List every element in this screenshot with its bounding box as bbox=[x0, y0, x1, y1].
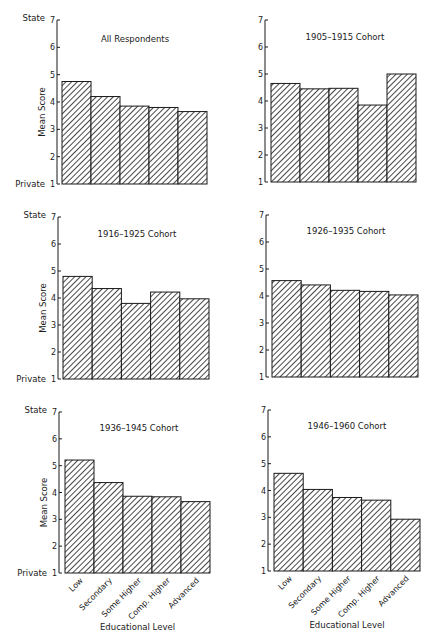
private-label: Private bbox=[15, 179, 45, 189]
category-label: Low bbox=[277, 574, 295, 592]
y-tick-label: 5 bbox=[51, 267, 56, 276]
y-tick-label: 6 bbox=[50, 43, 55, 52]
y-tick-label: 6 bbox=[259, 238, 264, 247]
y-tick-label: 5 bbox=[259, 265, 264, 274]
y-tick-label: 2 bbox=[259, 346, 264, 355]
bar-low bbox=[63, 276, 92, 379]
y-tick-label: 5 bbox=[50, 71, 55, 80]
bar-advanced bbox=[178, 112, 207, 184]
bar-advanced bbox=[180, 299, 209, 379]
panel-title: 1946–1960 Cohort bbox=[308, 421, 387, 431]
y-tick-label: 4 bbox=[261, 487, 266, 496]
x-axis-label: Educational Level bbox=[309, 620, 384, 630]
bar-some-higher bbox=[123, 496, 152, 573]
bar-secondary bbox=[92, 289, 121, 379]
y-tick-label: 2 bbox=[261, 540, 266, 549]
bar-advanced bbox=[389, 295, 418, 377]
state-label: State bbox=[25, 405, 48, 415]
y-tick-label: 4 bbox=[51, 294, 56, 303]
y-tick-label: 3 bbox=[51, 321, 56, 330]
chart-panel-1: 1234567All RespondentsMean ScoreStatePri… bbox=[15, 13, 207, 189]
y-tick-label: 4 bbox=[50, 98, 55, 107]
x-axis-label: Educational Level bbox=[100, 622, 175, 632]
y-tick-label: 4 bbox=[258, 97, 263, 106]
panel-title: 1926–1935 Cohort bbox=[307, 226, 386, 236]
y-tick-label: 1 bbox=[258, 178, 263, 187]
category-label: Advanced bbox=[167, 576, 201, 610]
bar-some-higher bbox=[329, 88, 358, 182]
y-tick-label: 7 bbox=[258, 16, 263, 25]
y-tick-label: 7 bbox=[261, 406, 266, 415]
y-tick-label: 3 bbox=[50, 125, 55, 134]
y-tick-label: 3 bbox=[259, 319, 264, 328]
bar-secondary bbox=[301, 285, 330, 377]
bar-secondary bbox=[303, 489, 332, 571]
y-tick-label: 4 bbox=[259, 292, 264, 301]
bar-some-higher bbox=[120, 106, 149, 184]
chart-panel-2: 12345671905–1915 Cohort bbox=[258, 16, 416, 187]
bar-secondary bbox=[300, 89, 329, 182]
y-tick-label: 1 bbox=[50, 180, 55, 189]
y-tick-label: 7 bbox=[259, 211, 264, 220]
figure: 1234567All RespondentsMean ScoreStatePri… bbox=[0, 0, 436, 643]
bar-comp-higher bbox=[358, 105, 387, 182]
chart-panel-4: 12345671926–1935 Cohort bbox=[259, 211, 418, 382]
y-tick-label: 5 bbox=[258, 70, 263, 79]
y-tick-label: 3 bbox=[258, 124, 263, 133]
chart-panels: 1234567All RespondentsMean ScoreStatePri… bbox=[15, 13, 420, 632]
state-label: State bbox=[23, 13, 46, 23]
y-axis-label: Mean Score bbox=[39, 478, 49, 528]
y-tick-label: 6 bbox=[52, 435, 57, 444]
bar-advanced bbox=[181, 502, 210, 573]
bar-some-higher bbox=[330, 290, 359, 377]
bar-some-higher bbox=[121, 303, 150, 379]
y-tick-label: 1 bbox=[51, 375, 56, 384]
private-label: Private bbox=[16, 374, 46, 384]
y-tick-label: 5 bbox=[261, 460, 266, 469]
private-label: Private bbox=[17, 568, 47, 578]
y-tick-label: 2 bbox=[50, 153, 55, 162]
y-tick-label: 2 bbox=[51, 348, 56, 357]
y-tick-label: 5 bbox=[52, 462, 57, 471]
y-tick-label: 1 bbox=[259, 373, 264, 382]
panel-title: 1905–1915 Cohort bbox=[306, 32, 385, 42]
y-tick-label: 1 bbox=[52, 569, 57, 578]
bar-low bbox=[65, 460, 94, 573]
panel-title: All Respondents bbox=[101, 34, 170, 44]
bar-advanced bbox=[391, 519, 420, 571]
y-tick-label: 7 bbox=[52, 408, 57, 417]
chart-panel-5: 12345671936–1945 CohortMean ScoreStatePr… bbox=[17, 405, 210, 632]
cropped-caption-fragment bbox=[0, 636, 436, 643]
y-tick-label: 7 bbox=[51, 213, 56, 222]
state-label: State bbox=[24, 210, 47, 220]
bar-comp-higher bbox=[151, 292, 180, 379]
chart-panel-3: 12345671916–1925 CohortMean ScoreStatePr… bbox=[16, 210, 209, 384]
bar-advanced bbox=[387, 74, 416, 182]
bar-low bbox=[272, 281, 301, 377]
y-tick-label: 6 bbox=[51, 240, 56, 249]
bar-some-higher bbox=[332, 497, 361, 571]
y-tick-label: 6 bbox=[261, 433, 266, 442]
y-axis-label: Mean Score bbox=[37, 87, 47, 137]
bar-low bbox=[274, 473, 303, 571]
bar-comp-higher bbox=[362, 500, 391, 571]
category-label: Advanced bbox=[377, 574, 411, 608]
y-tick-label: 3 bbox=[261, 513, 266, 522]
y-tick-label: 1 bbox=[261, 567, 266, 576]
bar-low bbox=[271, 83, 300, 182]
y-tick-label: 7 bbox=[50, 16, 55, 25]
y-tick-label: 2 bbox=[52, 542, 57, 551]
y-tick-label: 2 bbox=[258, 151, 263, 160]
y-tick-label: 6 bbox=[258, 43, 263, 52]
panel-title: 1936–1945 Cohort bbox=[100, 423, 179, 433]
bar-comp-higher bbox=[149, 107, 178, 184]
chart-panel-6: 12345671946–1960 CohortLowSecondarySome … bbox=[261, 406, 420, 630]
y-axis-label: Mean Score bbox=[38, 283, 48, 333]
bar-low bbox=[62, 82, 91, 185]
y-tick-label: 3 bbox=[52, 515, 57, 524]
bar-secondary bbox=[91, 97, 120, 184]
bar-comp-higher bbox=[360, 291, 389, 377]
bar-comp-higher bbox=[152, 497, 181, 573]
panel-title: 1916–1925 Cohort bbox=[98, 229, 177, 239]
y-tick-label: 4 bbox=[52, 489, 57, 498]
